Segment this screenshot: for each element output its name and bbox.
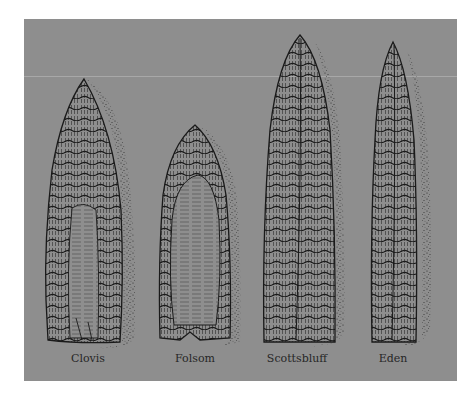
folsom-point xyxy=(159,124,240,346)
folsom-flute xyxy=(170,175,220,325)
label-eden: Eden xyxy=(379,352,408,365)
clovis-flute xyxy=(68,204,98,338)
eden-point xyxy=(371,42,431,345)
scottsbluff-point xyxy=(264,35,345,346)
label-folsom: Folsom xyxy=(175,352,215,365)
label-clovis: Clovis xyxy=(71,352,105,365)
projectile-points-illustration xyxy=(0,0,475,401)
clovis-point xyxy=(46,78,136,348)
label-scottsbluff: Scottsbluff xyxy=(267,352,327,365)
